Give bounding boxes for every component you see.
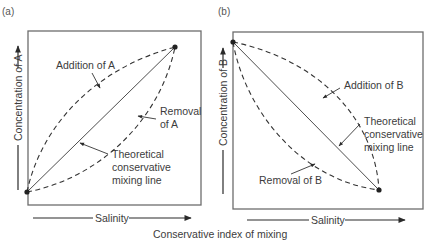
panel-b-endpoint-low <box>376 187 381 192</box>
mixing-diagram: (a) Concentration of A Addition of A Rem… <box>0 0 437 252</box>
panel-a-theoretical-label-2: conservative <box>112 161 171 173</box>
panel-b-removal-leader <box>291 164 315 174</box>
panel-b-theoretical-label-1: Theoretical <box>364 115 416 127</box>
panel-a-removal-leader <box>138 116 156 119</box>
panel-b-endpoint-high <box>230 39 235 44</box>
panel-b: (b) Concentration of B Addition of B The… <box>217 6 423 226</box>
panel-a-endpoint-low <box>24 189 29 194</box>
panel-b-x-axis-label: Salinity <box>311 214 346 226</box>
panel-a-y-axis-label: Concentration of A <box>12 55 24 141</box>
panel-b-label: (b) <box>218 6 230 17</box>
panel-a-label: (a) <box>2 6 14 17</box>
common-x-axis-label: Conservative index of mixing <box>153 228 287 240</box>
panel-a: (a) Concentration of A Addition of A Rem… <box>2 6 201 224</box>
panel-b-theoretical-label-2: conservative <box>364 128 423 140</box>
panel-a-theoretical-leader <box>80 143 108 154</box>
panel-a-removal-label-1: Removal <box>160 105 201 117</box>
panel-a-addition-label: Addition of A <box>56 59 115 71</box>
panel-b-removal-label: Removal of B <box>259 174 322 186</box>
panel-a-endpoint-high <box>172 44 177 49</box>
panel-a-theoretical-label-1: Theoretical <box>112 148 164 160</box>
panel-a-theoretical-label-3: mixing line <box>112 174 162 186</box>
panel-a-removal-label-2: of A <box>160 118 178 130</box>
panel-a-x-axis-label: Salinity <box>95 212 130 224</box>
panel-b-addition-label: Addition of B <box>344 79 404 91</box>
panel-b-theoretical-label-3: mixing line <box>364 141 414 153</box>
panel-b-y-axis-label: Concentration of B <box>217 59 229 146</box>
panel-b-theoretical-leader <box>339 124 360 146</box>
